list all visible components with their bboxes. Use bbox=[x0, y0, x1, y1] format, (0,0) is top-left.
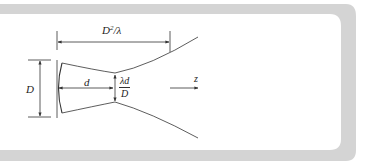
waist-size-denominator: D bbox=[119, 88, 130, 99]
waist-size-label: λd D bbox=[119, 76, 130, 99]
beam-lower-edge bbox=[62, 102, 198, 138]
waist-distance-label: d bbox=[84, 77, 90, 88]
far-field-rest: /λ bbox=[113, 24, 121, 36]
far-field-distance-label: D2/λ bbox=[102, 25, 121, 36]
z-axis-label: z bbox=[194, 74, 198, 84]
frame bbox=[0, 4, 356, 161]
aperture-diameter-label: D bbox=[26, 84, 34, 95]
far-field-base: D bbox=[102, 24, 110, 36]
waist-size-numerator: λd bbox=[119, 76, 130, 88]
diagram-canvas bbox=[0, 0, 368, 165]
